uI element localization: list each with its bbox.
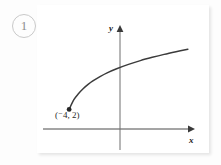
figure-root: 1 y x (⁻4, 2): [0, 0, 221, 165]
y-axis-label: y: [108, 23, 114, 33]
y-axis-arrow-icon: [117, 25, 124, 32]
curve-path: [69, 49, 188, 109]
graph-plot: y x (⁻4, 2): [0, 0, 221, 165]
endpoint-coordinate-label: (⁻4, 2): [55, 110, 80, 120]
x-axis-arrow-icon: [188, 126, 195, 133]
x-axis-label: x: [188, 135, 194, 145]
